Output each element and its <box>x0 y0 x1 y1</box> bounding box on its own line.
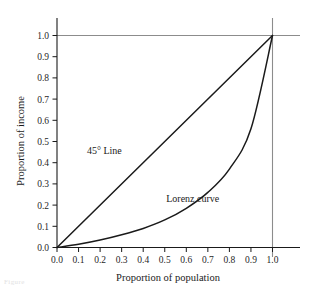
y-tick-label: 0.8 <box>37 73 49 83</box>
x-tick-label: 0.1 <box>73 255 85 265</box>
y-tick-label: 0.2 <box>37 201 49 211</box>
y-tick-label: 0.9 <box>37 52 49 62</box>
y-axis-title: Proportion of income <box>15 96 26 186</box>
x-axis-ticks <box>57 248 273 253</box>
x-tick-label: 0.6 <box>180 255 192 265</box>
y-tick-label: 0.0 <box>37 243 49 253</box>
x-tick-label: 1.0 <box>267 255 279 265</box>
x-tick-label: 0.3 <box>116 255 128 265</box>
y-tick-label: 0.7 <box>37 95 49 105</box>
y-tick-label: 1.0 <box>37 31 49 41</box>
lorenz-curve-label: Lorenz curve <box>166 193 220 204</box>
page-scan-artifact: Figure <box>4 278 25 286</box>
y-tick-label: 0.4 <box>37 158 49 168</box>
lorenz-curve-figure: 0.00.10.20.30.40.50.60.70.80.91.0 0.00.1… <box>0 0 310 287</box>
y-axis-tick-labels: 0.00.10.20.30.40.50.60.70.80.91.0 <box>37 31 49 253</box>
x-axis-title: Proportion of population <box>116 272 221 283</box>
y-tick-label: 0.5 <box>37 137 49 147</box>
x-axis-tick-labels: 0.00.10.20.30.40.50.60.70.80.91.0 <box>51 255 279 265</box>
chart-canvas: 0.00.10.20.30.40.50.60.70.80.91.0 0.00.1… <box>0 0 310 287</box>
reference-lines <box>57 18 300 257</box>
x-tick-label: 0.2 <box>94 255 106 265</box>
x-tick-label: 0.5 <box>159 255 171 265</box>
x-tick-label: 0.4 <box>137 255 149 265</box>
equality-line-label: 45° Line <box>87 145 122 156</box>
x-tick-label: 0.0 <box>51 255 63 265</box>
equality-line-45deg <box>57 36 273 248</box>
x-tick-label: 0.9 <box>245 255 257 265</box>
y-tick-label: 0.3 <box>37 179 49 189</box>
y-axis-ticks <box>53 36 58 248</box>
y-tick-label: 0.6 <box>37 116 49 126</box>
data-series <box>57 36 273 248</box>
x-tick-label: 0.8 <box>223 255 235 265</box>
x-tick-label: 0.7 <box>202 255 214 265</box>
y-tick-label: 0.1 <box>37 222 49 232</box>
